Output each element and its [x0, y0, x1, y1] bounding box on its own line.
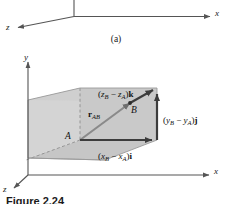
x-comp-minus: −: [109, 151, 119, 161]
z-comp-minus: −: [109, 89, 119, 99]
figure-caption: Figure 2.24: [6, 195, 65, 204]
z-comp-unit-vector: k: [129, 89, 134, 99]
panel-a-axes: [18, 0, 210, 28]
y-comp-unit-vector: j: [194, 115, 198, 125]
point-b-label: B: [131, 105, 137, 115]
panel-a-z-axis-label: z: [5, 22, 10, 32]
x-comp-unit-vector: i: [130, 151, 133, 161]
panel-a-z-axis: [18, 17, 74, 28]
y-component-label: (yB − yA)j: [163, 115, 198, 126]
panel-a-caption: (a): [111, 34, 122, 45]
vector-r-ab-subscript: AB: [91, 113, 100, 120]
panel-a-x-axis-label: x: [214, 8, 219, 18]
z-component-label: (zB − zA)k: [98, 89, 134, 100]
figure-illustration: x z (a) y x z: [0, 0, 233, 204]
panel-b-z-axis: [14, 175, 28, 188]
figure-container: x z (a) y x z: [0, 0, 233, 204]
point-a-label: A: [64, 131, 71, 141]
panel-b-x-axis-label: x: [213, 166, 218, 176]
panel-b-z-axis-label: z: [2, 184, 7, 194]
y-comp-minus: −: [174, 115, 184, 125]
x-component-label: (xB − xA)i: [98, 151, 133, 162]
panel-b-y-axis-label: y: [23, 52, 28, 62]
